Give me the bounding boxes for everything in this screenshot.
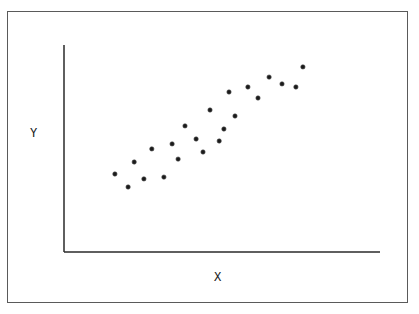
data-point [183,124,187,128]
data-point [194,137,198,141]
data-point [217,139,221,143]
data-point [222,127,226,131]
data-point [132,160,136,164]
data-point [113,172,117,176]
data-point [280,82,284,86]
data-point [294,85,298,89]
data-point [246,85,250,89]
data-point [201,150,205,154]
scatter-plot [0,0,419,314]
data-point [162,175,166,179]
data-point [267,75,271,79]
data-point [256,96,260,100]
data-point [227,90,231,94]
data-point [150,147,154,151]
data-point [208,108,212,112]
data-point [170,142,174,146]
data-point [233,114,237,118]
data-points [113,65,305,189]
y-axis-label: Y [30,127,37,139]
data-point [142,177,146,181]
x-axis-label: X [214,271,221,283]
data-point [301,65,305,69]
data-point [126,185,130,189]
data-point [176,157,180,161]
